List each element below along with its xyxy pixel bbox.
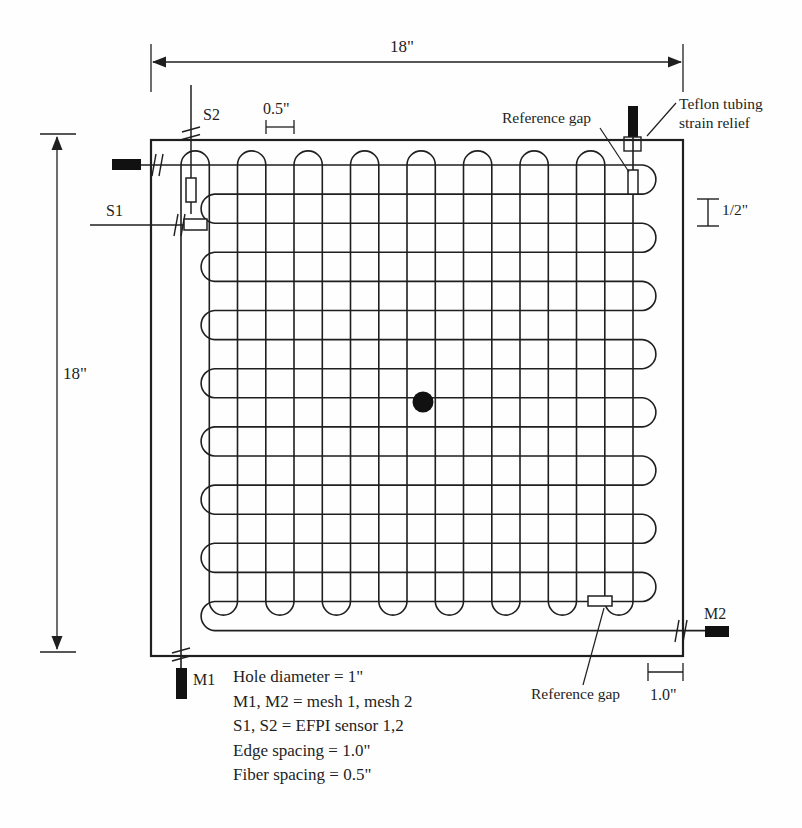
dim-fiber-label: 0.5" <box>263 100 290 118</box>
reference-gap-bottom-label: Reference gap <box>531 685 620 703</box>
dim-left-label: 18" <box>63 364 87 384</box>
m2-lead-rod <box>705 626 729 637</box>
dim-left-arrow-bottom <box>52 636 63 650</box>
figure-canvas: 18" 18" 0.5" 1/2" 1.0" S2 S1 M1 M2 Refer… <box>0 0 802 828</box>
teflon-strain-relief-rod <box>628 106 638 137</box>
dim-left-arrow-top <box>52 136 63 150</box>
dim-top-arrow-right <box>668 57 682 68</box>
legend-block: Hole diameter = 1" M1, M2 = mesh 1, mesh… <box>233 665 413 788</box>
s2-efpi-sensor <box>186 178 196 202</box>
strain-relief-label-line1: Teflon tubing <box>679 95 763 113</box>
reference-gap-top-label: Reference gap <box>502 109 591 127</box>
s1-label: S1 <box>106 202 123 220</box>
s1-efpi-sensor <box>184 219 207 230</box>
legend-line-edge-spacing: Edge spacing = 1.0" <box>233 739 413 764</box>
dim-top-label: 18" <box>390 37 414 57</box>
mesh2-lead-rod <box>112 159 141 170</box>
legend-line-efpi: S1, S2 = EFPI sensor 1,2 <box>233 714 413 739</box>
s2-label: S2 <box>203 106 220 124</box>
m1-lead-rod <box>176 668 187 699</box>
m2-label: M2 <box>704 605 726 623</box>
legend-line-mesh: M1, M2 = mesh 1, mesh 2 <box>233 690 413 715</box>
reference-gap-top-box <box>628 170 638 194</box>
dim-half-label: 1/2" <box>722 201 748 219</box>
dim-top-arrow-left <box>152 57 166 68</box>
dim-edge-label: 1.0" <box>650 686 677 704</box>
center-hole <box>413 392 434 413</box>
reference-gap-bottom-box <box>588 596 612 606</box>
m1-label: M1 <box>193 671 215 689</box>
legend-line-fiber-spacing: Fiber spacing = 0.5" <box>233 763 413 788</box>
strain-relief-leader <box>647 103 676 136</box>
legend-line-hole-diameter: Hole diameter = 1" <box>233 665 413 690</box>
strain-relief-label-line2: strain relief <box>679 114 750 132</box>
reference-gap-bottom-leader <box>583 608 604 685</box>
